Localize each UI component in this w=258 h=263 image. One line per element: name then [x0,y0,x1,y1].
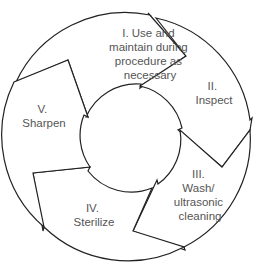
cycle-diagram: I. Use and maintain during procedure as … [0,0,258,263]
